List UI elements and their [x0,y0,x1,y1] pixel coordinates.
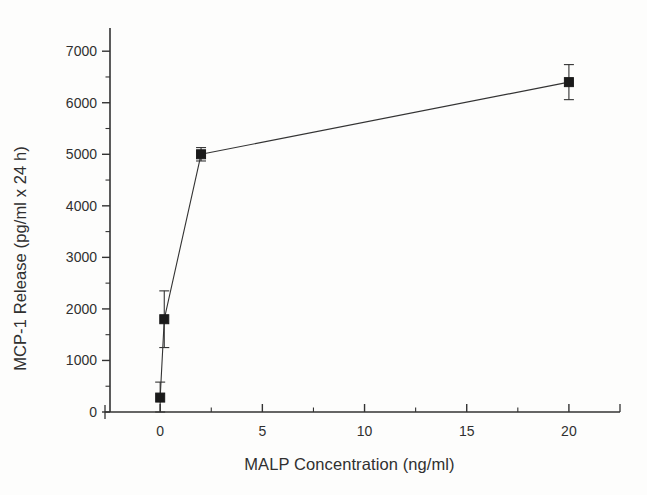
x-axis-tick-label: 15 [459,423,475,439]
y-axis-tick-label: 2000 [0,301,97,317]
x-axis-tick-label: 20 [561,423,577,439]
data-point-marker [564,78,573,87]
y-axis-tick-label: 3000 [0,249,97,265]
x-axis-tick-label: 5 [258,423,266,439]
y-axis-tick-label: 4000 [0,198,97,214]
y-axis-tick-label: 1000 [0,352,97,368]
y-axis-tick-label: 6000 [0,95,97,111]
data-point-marker [156,393,165,402]
data-point-marker [160,315,169,324]
data-point-marker [197,150,206,159]
series-line [160,82,569,397]
x-axis-label: MALP Concentration (ng/ml) [0,455,647,474]
y-axis-tick-label: 7000 [0,43,97,59]
chart-figure: MCP-1 Release (pg/ml x 24 h) MALP Concen… [0,0,647,495]
x-axis-label-text: MALP Concentration (ng/ml) [192,455,454,474]
y-axis-tick-label: 5000 [0,146,97,162]
line-chart-plot [0,0,647,495]
x-axis-tick-label: 0 [156,423,164,439]
y-axis-tick-label: 0 [0,404,97,420]
x-axis-tick-label: 10 [357,423,373,439]
